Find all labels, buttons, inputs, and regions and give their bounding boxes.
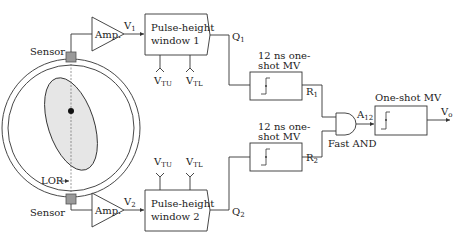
- output-mv-label: One-shot MV: [375, 92, 442, 103]
- vtu1-label: VTU: [153, 75, 172, 88]
- one-shot-mv-output: [375, 106, 427, 135]
- source-point-icon: [68, 108, 74, 114]
- q2-label: Q2: [232, 206, 245, 219]
- v1-label: V1: [123, 20, 136, 33]
- mv1-line2: shot MV: [258, 60, 301, 71]
- and-gate-icon: [336, 113, 356, 135]
- vtl1-label: VTL: [185, 75, 203, 88]
- r2-label: R2: [306, 152, 318, 165]
- vtu2-label: VTU: [153, 156, 172, 169]
- fast-and-label: Fast AND: [328, 138, 377, 149]
- one-shot-mv-2: [250, 143, 302, 171]
- sensor-bottom-label: Sensor: [30, 207, 65, 218]
- amp1-label: Amp.: [94, 29, 121, 40]
- sensor-bottom: [66, 194, 76, 204]
- sensor-top-label: Sensor: [30, 46, 65, 57]
- one-shot-mv-1: [250, 72, 302, 100]
- r1-label: R1: [306, 86, 318, 99]
- q1-label: Q1: [232, 31, 245, 44]
- window2-line2: window 2: [151, 211, 200, 222]
- window1-line2: window 1: [151, 35, 200, 46]
- v2-label: V2: [123, 196, 136, 209]
- pet-coincidence-diagram: Sensor Sensor LOR Amp. V1 Pulse-height w…: [0, 0, 466, 245]
- window1-line1: Pulse-height: [151, 22, 214, 33]
- window2-line1: Pulse-height: [151, 198, 214, 209]
- vo-label: Vo: [440, 106, 452, 119]
- sensor-top: [66, 52, 76, 62]
- vtl2-label: VTL: [185, 156, 203, 169]
- a12-label: A12: [356, 109, 373, 122]
- amp2-label: Amp.: [94, 205, 121, 216]
- mv2-line2: shot MV: [258, 131, 301, 142]
- lor-label: LOR: [41, 175, 64, 186]
